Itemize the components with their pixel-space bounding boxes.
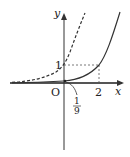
y-axis-label: y (53, 7, 61, 20)
y-axis-arrow-icon (61, 13, 67, 20)
dashed-curve (12, 13, 85, 82)
exponential-graph: y x O 1 2 1 9 (0, 0, 130, 157)
x-axis-label: x (115, 85, 122, 98)
y-tick-one-label: 1 (55, 59, 62, 72)
fraction-numerator: 1 (74, 96, 80, 106)
x-tick-two-label: 2 (95, 86, 102, 99)
y-intercept-point (64, 80, 67, 83)
origin-label: O (51, 86, 60, 99)
solid-curve (12, 12, 120, 83)
fraction-denominator: 9 (74, 106, 80, 116)
